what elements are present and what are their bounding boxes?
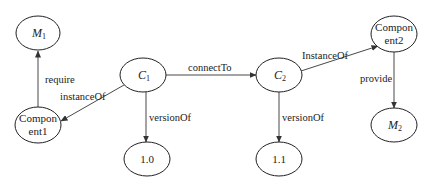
node-Component1: Compon ent1 xyxy=(15,107,61,143)
node-label-Component2-line1: Compon xyxy=(375,21,413,33)
edge-provide: provide xyxy=(360,52,394,108)
edge-label-provide: provide xyxy=(360,73,392,84)
node-V10: 1.0 xyxy=(124,142,170,176)
edge-label-instanceOf: instanceOf xyxy=(60,91,106,102)
edge-label-connectTo: connectTo xyxy=(188,62,232,73)
edge-label-require: require xyxy=(45,74,75,85)
edge-label-versionOf-2: versionOf xyxy=(282,112,324,123)
edge-instanceOf: instanceOf xyxy=(60,85,124,121)
edge-versionOf-1: versionOf xyxy=(146,92,191,142)
edge-connectTo: connectTo xyxy=(166,62,256,75)
edge-versionOf-2: versionOf xyxy=(279,92,324,142)
edge-label-InstanceOf: InstanceOf xyxy=(302,50,349,61)
node-label-V11: 1.1 xyxy=(272,153,286,165)
node-label-Component1-line2: ent1 xyxy=(29,125,48,137)
node-C1: C1 xyxy=(120,58,166,92)
node-Component2: Compon ent2 xyxy=(371,16,417,52)
node-label-Component2-line2: ent2 xyxy=(385,34,404,46)
node-label-Component1-line1: Compon xyxy=(19,112,57,124)
node-M2: M2 xyxy=(371,108,417,142)
node-V11: 1.1 xyxy=(256,142,302,176)
node-label-V10: 1.0 xyxy=(140,153,154,165)
edge-InstanceOf: InstanceOf xyxy=(301,46,378,71)
edge-label-versionOf-1: versionOf xyxy=(149,112,191,123)
node-C2: C2 xyxy=(256,58,302,92)
node-M1: M1 xyxy=(16,16,60,50)
component-relationship-diagram: require instanceOf versionOf connectTo v… xyxy=(0,0,430,188)
